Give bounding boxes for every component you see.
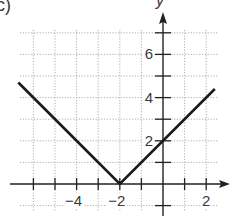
graph: −4−22246 c) y [0, 0, 233, 221]
y-tick-label: 2 [145, 132, 153, 149]
x-tick-label: −2 [108, 192, 125, 209]
y-tick-label: 6 [145, 45, 153, 62]
x-tick-label: −4 [65, 192, 82, 209]
panel-label: c) [0, 0, 11, 15]
y-axis-label: y [155, 0, 165, 9]
x-tick-label: 2 [202, 192, 210, 209]
y-tick-label: 4 [145, 89, 153, 106]
